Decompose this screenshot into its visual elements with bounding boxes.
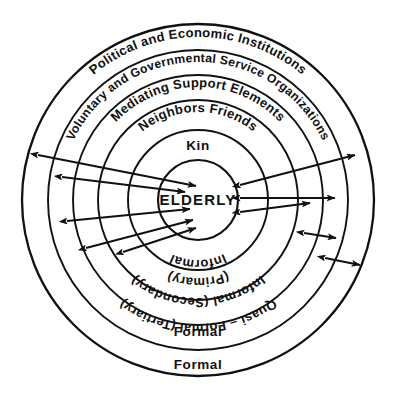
concentric-rings-svg: Political and Economic Institutions Volu…	[0, 0, 396, 397]
center-label-elderly: ELDERLY	[159, 191, 236, 208]
support-system-diagram: Political and Economic Institutions Volu…	[0, 0, 396, 397]
arrow-right-lower	[240, 203, 310, 212]
ring-label-neighbors-friends: Neighbors Friends	[135, 100, 260, 134]
arrow-group-right	[240, 155, 360, 265]
label-informal-primary-line1: Informal	[167, 251, 229, 272]
label-formal-outer: Formal	[174, 357, 223, 372]
arrow-left-diagonal	[123, 228, 196, 252]
arrow-right-short-2	[325, 258, 360, 265]
ring-label-kin: Kin	[186, 138, 210, 153]
arrow-right-short-1	[304, 233, 336, 238]
arrow-right-outer	[240, 155, 355, 185]
label-informal-primary-line2: (Primary)	[165, 270, 232, 291]
label-formal-outer-mid: Formal	[174, 324, 223, 339]
